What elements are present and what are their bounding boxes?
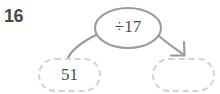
output-value-text: [154, 60, 213, 90]
operation-label: ÷17: [95, 16, 161, 38]
input-value-box[interactable]: 51: [38, 58, 101, 92]
input-connector-curve: [68, 35, 96, 58]
output-answer-box[interactable]: [152, 58, 215, 92]
input-value-text: 51: [40, 60, 99, 90]
output-connector-curve: [159, 36, 184, 55]
function-machine-problem: 16 ÷17 51: [0, 0, 220, 94]
